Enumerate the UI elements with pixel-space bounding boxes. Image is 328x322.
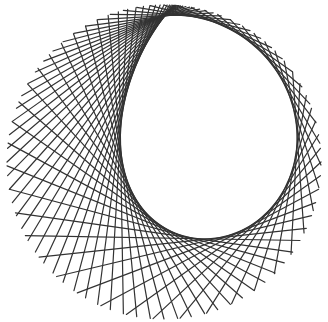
- chord-line: [8, 143, 265, 282]
- chord-line: [207, 135, 319, 313]
- chord-line: [8, 5, 175, 175]
- string-art-canvas: [0, 0, 328, 322]
- chord-line: [77, 203, 315, 293]
- chord-line: [12, 5, 176, 121]
- chord-lines: [7, 5, 321, 319]
- chord-line: [28, 84, 231, 304]
- chord-line: [180, 148, 320, 318]
- chord-line: [8, 5, 176, 148]
- string-art-pattern: [0, 0, 328, 322]
- chord-line: [275, 51, 319, 188]
- chord-line: [9, 189, 284, 263]
